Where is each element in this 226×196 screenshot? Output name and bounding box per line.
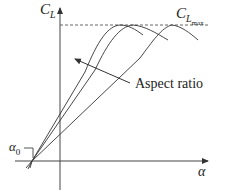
x-axis-label: α	[198, 164, 205, 180]
lift-curve-diagram: CL CLmax Aspect ratio α0 α	[0, 0, 226, 196]
clmax-label: CLmax	[176, 5, 204, 27]
alpha0-label: α0	[9, 139, 20, 157]
aspect-ratio-label: Aspect ratio	[135, 76, 203, 92]
lift-curve-low-ar	[30, 25, 198, 168]
y-axis-label: CL	[40, 1, 56, 20]
alpha0-leader	[24, 148, 33, 158]
lift-curve-high-ar	[26, 25, 143, 168]
diagram-canvas	[0, 0, 226, 196]
aspect-ratio-arrow	[75, 59, 130, 83]
lift-curve-mid-ar	[28, 25, 168, 169]
